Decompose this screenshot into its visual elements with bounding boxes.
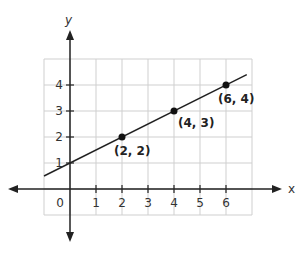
data-points: (2, 2)(4, 3)(6, 4) [114, 82, 254, 159]
coordinate-plane: xy 12345612340 (2, 2)(4, 3)(6, 4) [0, 0, 306, 255]
y-tick-label: 3 [55, 104, 63, 118]
x-axis-left-arrow-icon [8, 185, 18, 193]
point-label: (6, 4) [218, 92, 254, 106]
y-axis-down-arrow-icon [66, 232, 74, 242]
plot-line [44, 75, 247, 176]
data-point [171, 108, 178, 115]
x-axis-label: x [288, 182, 295, 196]
x-tick-label: 2 [118, 196, 126, 210]
x-tick-label: 4 [170, 196, 178, 210]
y-axis-up-arrow-icon [66, 30, 74, 40]
y-tick-label: 4 [55, 78, 63, 92]
origin-label: 0 [56, 196, 64, 210]
data-point [223, 82, 230, 89]
x-axis-right-arrow-icon [272, 185, 282, 193]
x-tick-label: 1 [92, 196, 100, 210]
line-y-equals-half-x-plus-1 [44, 75, 247, 176]
x-tick-label: 5 [196, 196, 204, 210]
x-tick-label: 3 [144, 196, 152, 210]
y-tick-label: 2 [55, 130, 63, 144]
point-label: (2, 2) [114, 144, 150, 158]
y-axis-label: y [64, 13, 73, 27]
x-tick-label: 6 [222, 196, 230, 210]
data-point [119, 134, 126, 141]
point-label: (4, 3) [178, 116, 214, 130]
